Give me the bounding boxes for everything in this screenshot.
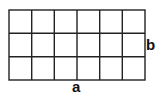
rectangle-grid [8,9,146,81]
label-a-width: a [72,79,80,94]
label-b-height: b [146,37,155,52]
